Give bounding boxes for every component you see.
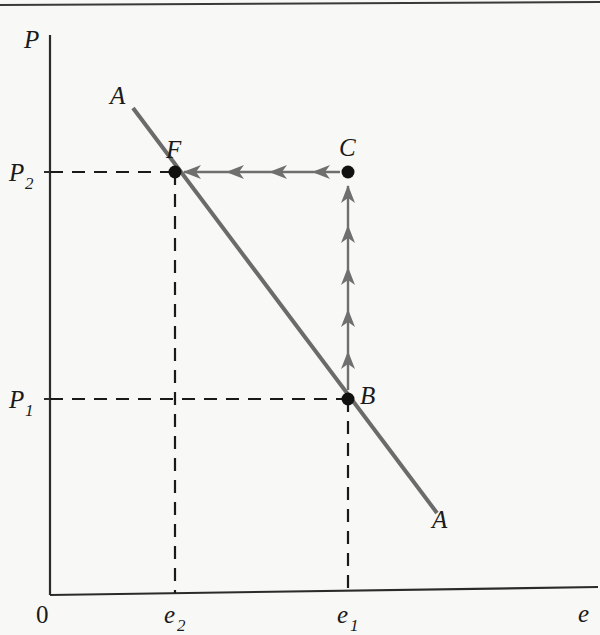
arrow-up-b-to-c bbox=[341, 185, 355, 390]
x-tick-label-e1: e 1 bbox=[337, 601, 359, 635]
curve-label-a-bottom: A bbox=[430, 506, 448, 533]
y-tick-label-p2: P 2 bbox=[8, 159, 34, 193]
svg-text:e: e bbox=[164, 601, 175, 628]
origin-label: 0 bbox=[36, 601, 49, 628]
x-axis bbox=[50, 587, 598, 595]
arrow-left-c-to-f bbox=[183, 165, 340, 179]
point-label-c: C bbox=[339, 134, 356, 161]
svg-text:e: e bbox=[337, 601, 348, 628]
economics-diagram: P e 0 P 2 P 1 e 2 e 1 A A F C B bbox=[0, 0, 600, 635]
point-f bbox=[169, 166, 182, 179]
y-axis-label: P bbox=[23, 26, 39, 53]
point-c bbox=[342, 166, 355, 179]
svg-text:2: 2 bbox=[25, 174, 34, 193]
point-label-b: B bbox=[360, 382, 375, 409]
svg-text:1: 1 bbox=[350, 616, 359, 635]
point-label-f: F bbox=[165, 136, 182, 163]
x-axis-label: e bbox=[578, 600, 589, 627]
svg-text:P: P bbox=[8, 159, 24, 186]
svg-text:2: 2 bbox=[177, 616, 186, 635]
y-tick-label-p1: P 1 bbox=[8, 386, 34, 420]
page-rule bbox=[0, 2, 600, 5]
svg-text:P: P bbox=[8, 386, 24, 413]
svg-text:1: 1 bbox=[25, 401, 34, 420]
figure-container: P e 0 P 2 P 1 e 2 e 1 A A F C B bbox=[0, 0, 600, 635]
curve-label-a-top: A bbox=[108, 82, 126, 109]
point-b bbox=[342, 393, 355, 406]
x-tick-label-e2: e 2 bbox=[164, 601, 186, 635]
